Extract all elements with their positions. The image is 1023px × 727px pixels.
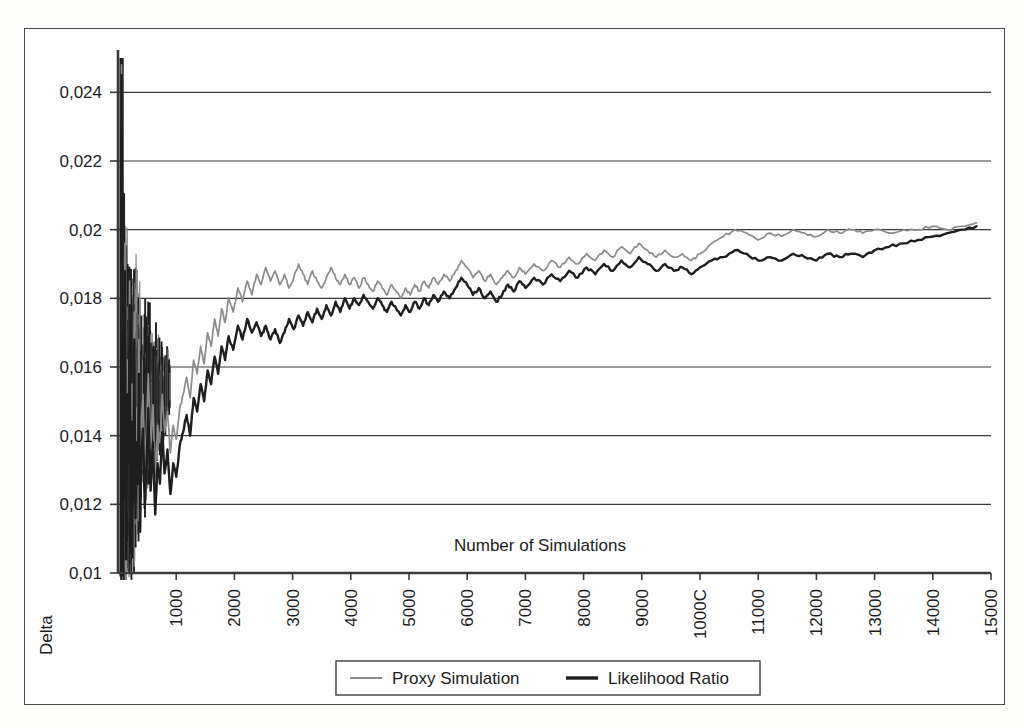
x-axis-title: Number of Simulations bbox=[454, 536, 626, 555]
y-axis-title: Delta bbox=[37, 615, 56, 655]
axis-lines bbox=[118, 50, 991, 573]
y-tick-label-6: 0,022 bbox=[59, 152, 102, 171]
convergence-line-chart: 0,010,0120,0140,0160,0180,020,0220,024 1… bbox=[0, 0, 1023, 727]
x-tick-label-2: 3000 bbox=[284, 589, 303, 627]
series-line-proxy-simulation bbox=[121, 65, 976, 511]
x-tick-label-0: 1000 bbox=[167, 589, 186, 627]
figure-canvas: 0,010,0120,0140,0160,0180,020,0220,024 1… bbox=[0, 0, 1023, 727]
x-tick-label-9: 1000C bbox=[691, 589, 710, 639]
y-tick-label-3: 0,016 bbox=[59, 358, 102, 377]
x-tick-label-13: 14000 bbox=[924, 589, 943, 636]
legend-label-1: Likelihood Ratio bbox=[608, 669, 729, 688]
x-tick-label-4: 5000 bbox=[400, 589, 419, 627]
x-tick-label-12: 13000 bbox=[866, 589, 885, 636]
y-axis-tick-labels: 0,010,0120,0140,0160,0180,020,0220,024 bbox=[59, 83, 102, 583]
y-tick-label-5: 0,02 bbox=[69, 221, 102, 240]
x-tick-label-5: 6000 bbox=[458, 589, 477, 627]
gridlines bbox=[118, 92, 991, 573]
y-tick-label-4: 0,018 bbox=[59, 289, 102, 308]
x-tick-label-11: 12000 bbox=[807, 589, 826, 636]
y-tick-label-1: 0,012 bbox=[59, 495, 102, 514]
data-series bbox=[121, 58, 976, 580]
series-line-likelihood-ratio bbox=[121, 75, 976, 559]
x-tick-label-7: 8000 bbox=[575, 589, 594, 627]
y-tick-label-2: 0,014 bbox=[59, 427, 102, 446]
x-tick-label-1: 2000 bbox=[225, 589, 244, 627]
x-tick-label-8: 9000 bbox=[633, 589, 652, 627]
x-tick-label-10: 11000 bbox=[749, 589, 768, 635]
y-tick-label-0: 0,01 bbox=[69, 564, 102, 583]
legend-label-0: Proxy Simulation bbox=[392, 669, 520, 688]
x-tick-label-6: 7000 bbox=[516, 589, 535, 627]
x-axis-tick-labels: 1000200030004000500060007000800090001000… bbox=[167, 589, 1001, 639]
x-tick-label-3: 4000 bbox=[342, 589, 361, 627]
chart-legend[interactable]: Proxy SimulationLikelihood Ratio bbox=[336, 661, 760, 695]
x-tick-label-14: 15000 bbox=[982, 589, 1001, 636]
y-tick-label-7: 0,024 bbox=[59, 83, 102, 102]
